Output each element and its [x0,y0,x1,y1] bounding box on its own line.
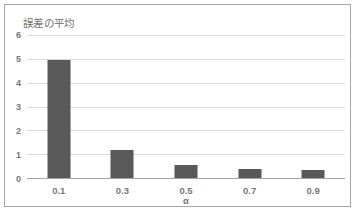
y-axis-tick-label: 1 [16,150,21,160]
bar-group: 0.1 [27,35,91,178]
bar[interactable] [302,170,325,178]
x-axis-line: 0 [27,178,345,179]
bar[interactable] [47,60,70,178]
y-axis-tick-label: 2 [16,126,21,136]
y-axis-tick-label: 0 [16,174,21,184]
bar[interactable] [238,169,261,178]
chart-title: 誤差の平均 [23,15,75,30]
bar-group: 0.5 [154,35,218,178]
bar[interactable] [174,165,197,178]
y-axis-tick-label: 5 [16,54,21,64]
y-axis-tick-label: 6 [16,30,21,40]
y-axis-tick-label: 4 [16,78,21,88]
bar-group: 0.3 [91,35,155,178]
chart-frame: 誤差の平均 6543210 0.10.30.50.70.9 α [4,4,351,207]
bar-series: 0.10.30.50.70.9 [27,35,345,178]
x-axis-title: α [27,195,345,206]
y-axis-tick-label: 3 [16,102,21,112]
bar-group: 0.9 [281,35,345,178]
bar-group: 0.7 [218,35,282,178]
bar[interactable] [111,150,134,178]
plot-wrapper: 6543210 0.10.30.50.70.9 [27,35,345,178]
